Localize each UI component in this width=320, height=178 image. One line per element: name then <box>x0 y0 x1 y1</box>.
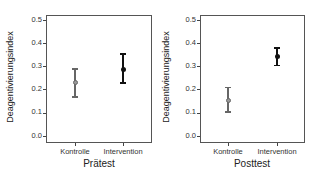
chart-panel-posttest: Deagentivierungsindex 0.5 0.4 0.3 0.2 0.… <box>154 0 314 178</box>
y-tick <box>197 66 200 67</box>
x-axis-title: Posttest <box>202 158 302 169</box>
y-tick-label: 0.0 <box>178 131 196 140</box>
x-tick <box>277 143 278 146</box>
mean-point <box>73 80 78 85</box>
y-tick-label: 0.4 <box>178 38 196 47</box>
x-tick-label: Intervention <box>247 147 307 156</box>
y-tick <box>43 136 46 137</box>
mean-point <box>226 98 231 103</box>
y-axis-title: Deagentivierungsindex <box>5 17 15 137</box>
plot-area <box>46 15 152 143</box>
mean-point <box>121 67 126 72</box>
y-tick <box>197 89 200 90</box>
y-tick <box>43 89 46 90</box>
y-tick <box>43 113 46 114</box>
y-tick-label: 0.3 <box>178 61 196 70</box>
x-tick <box>75 143 76 146</box>
y-tick <box>43 43 46 44</box>
plot-area <box>200 15 305 143</box>
y-tick-label: 0.1 <box>24 107 42 116</box>
y-tick <box>43 66 46 67</box>
y-tick <box>197 43 200 44</box>
y-tick-label: 0.5 <box>24 15 42 24</box>
y-tick <box>197 20 200 21</box>
y-tick <box>43 20 46 21</box>
x-tick <box>123 143 124 146</box>
chart-panel-praetest: Deagentivierungsindex 0.5 0.4 0.3 0.2 0.… <box>0 0 160 178</box>
y-axis-title: Deagentivierungsindex <box>161 17 171 137</box>
y-tick-label: 0.5 <box>178 15 196 24</box>
y-tick-label: 0.3 <box>24 61 42 70</box>
y-tick-label: 0.2 <box>178 84 196 93</box>
y-tick-label: 0.0 <box>24 131 42 140</box>
y-tick-label: 0.1 <box>178 107 196 116</box>
x-tick-label: Intervention <box>93 147 153 156</box>
y-tick <box>197 113 200 114</box>
mean-point <box>275 54 280 59</box>
y-tick <box>197 136 200 137</box>
y-tick-label: 0.4 <box>24 38 42 47</box>
x-tick <box>228 143 229 146</box>
x-axis-title: Prätest <box>49 158 149 169</box>
y-tick-label: 0.2 <box>24 84 42 93</box>
